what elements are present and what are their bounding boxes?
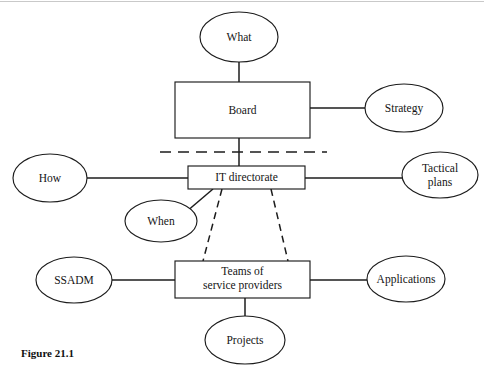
node-tactical-plans-label-line1: Tactical [422,162,458,174]
node-it-directorate[interactable]: IT directorate [188,166,305,189]
node-board[interactable]: Board [175,82,310,138]
node-applications-label: Applications [377,273,436,286]
node-when[interactable]: When [125,200,197,242]
diagram-canvas: What Board Strategy How IT directorate T… [0,0,484,373]
node-what-label: What [227,31,253,43]
node-teams-label-line1: Teams of [221,265,263,277]
node-how[interactable]: How [13,154,87,202]
connector-it-directorate-to-teams-left [203,189,222,261]
node-strategy[interactable]: Strategy [365,84,443,132]
figure-diagram: What Board Strategy How IT directorate T… [0,0,484,373]
node-how-label: How [39,172,62,184]
connector-it-directorate-to-teams-right [271,189,288,261]
node-teams[interactable]: Teams of service providers [175,261,310,298]
figure-caption: Figure 21.1 [21,347,74,359]
node-tactical-plans-label-line2: plans [428,176,453,189]
node-projects[interactable]: Projects [205,316,285,364]
node-ssadm-label: SSADM [54,274,94,286]
node-when-label: When [147,215,175,227]
node-strategy-label: Strategy [385,102,424,115]
node-board-label: Board [228,104,256,116]
node-it-directorate-label: IT directorate [215,171,278,183]
node-ssadm[interactable]: SSADM [36,257,112,303]
node-what[interactable]: What [200,12,278,62]
node-teams-label-line2: service providers [203,279,282,292]
node-applications[interactable]: Applications [367,256,445,302]
node-projects-label: Projects [226,334,264,347]
node-tactical-plans[interactable]: Tactical plans [402,152,478,198]
